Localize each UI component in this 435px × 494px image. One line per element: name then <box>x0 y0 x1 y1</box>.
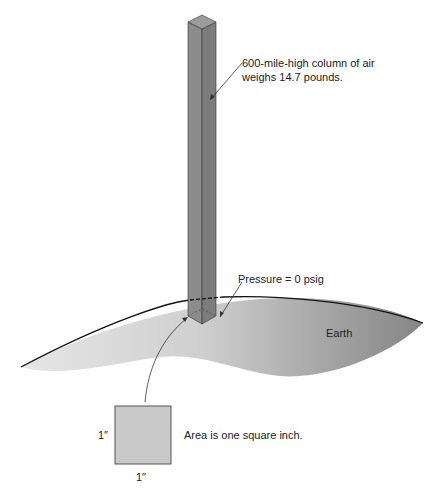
column-left-face <box>188 22 202 324</box>
column-label-line1: 600-mile-high column of air <box>242 56 375 70</box>
area-label: Area is one square inch. <box>184 428 303 442</box>
bottom-dimension-label: 1″ <box>136 470 146 484</box>
pressure-label: Pressure = 0 psig <box>238 272 324 286</box>
column-right-face <box>202 22 216 324</box>
column-label-line2: weighs 14.7 pounds. <box>242 70 343 84</box>
air-column <box>188 15 223 324</box>
one-square-inch <box>115 406 171 464</box>
atmospheric-pressure-diagram <box>0 0 435 494</box>
side-dimension-label: 1″ <box>98 428 108 442</box>
earth-label: Earth <box>326 326 352 340</box>
